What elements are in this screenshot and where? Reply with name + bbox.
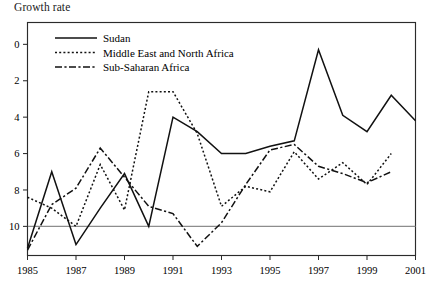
y-tick-label: 10	[9, 221, 20, 232]
y-tick-label: 2	[14, 75, 19, 86]
growth-rate-chart: Growth rate 1086420198519871989199119931…	[0, 0, 431, 298]
y-tick-label: 6	[14, 148, 19, 159]
y-tick-label: 8	[14, 185, 19, 196]
x-tick-label: 1999	[357, 265, 378, 276]
x-tick-label: 1989	[114, 265, 135, 276]
x-tick-label: 1997	[308, 265, 329, 276]
x-tick-label: 1985	[17, 265, 38, 276]
source-note	[22, 290, 431, 298]
chart-plot-area: 1086420198519871989199119931995199719992…	[0, 0, 431, 298]
legend-label: Sudan	[103, 32, 131, 44]
x-tick-label: 1987	[66, 265, 87, 276]
x-tick-label: 1993	[211, 265, 232, 276]
x-tick-label: 1991	[163, 265, 184, 276]
x-tick-label: 1995	[260, 265, 281, 276]
x-tick-label: 2001	[405, 265, 426, 276]
series-line	[28, 92, 392, 227]
y-tick-label: 0	[14, 39, 19, 50]
y-tick-label: 4	[14, 112, 20, 123]
legend-label: Middle East and North Africa	[103, 47, 234, 59]
series-line	[28, 50, 416, 248]
legend-label: Sub-Saharan Africa	[103, 61, 190, 73]
